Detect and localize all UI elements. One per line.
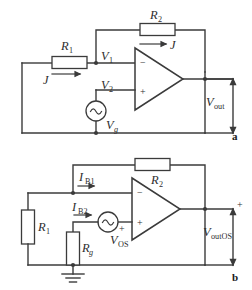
label-voutos-subscript: outOS — [211, 232, 232, 241]
label-ib1-subscript: B1 — [85, 177, 95, 186]
node-dot-source-gnd — [94, 131, 98, 135]
node-dot-b-inverting — [71, 191, 75, 195]
opamp-a-plus-sign: + — [140, 86, 146, 97]
resistor-b-rg-body — [67, 232, 80, 265]
opamp-b-minus-sign: − — [137, 187, 143, 198]
label-vout-subscript: out — [214, 102, 225, 111]
ground-icon — [62, 274, 84, 282]
label-r2: R — [149, 8, 158, 22]
resistor-b-r2-body — [135, 159, 170, 171]
label-r1: R — [60, 39, 69, 53]
label-source-vg-subscript: g — [114, 125, 118, 134]
wire-b-feedback-right — [170, 165, 205, 208]
wire-feedback-right — [175, 30, 205, 72]
current-arrow-j1-head — [75, 72, 80, 77]
current-arrow-j2-head — [161, 42, 166, 47]
label-node-v2-subscript: 2 — [109, 85, 113, 94]
label-ib2-subscript: B2 — [78, 207, 88, 216]
panel-label-b: b — [232, 271, 238, 283]
node-dot-b-output — [203, 207, 207, 211]
circuit-diagram-svg: − + R 1 R 2 J J V 1 V 2 V g V out a — [0, 0, 252, 290]
label-ib2: I — [71, 200, 77, 214]
label-r2-subscript: 2 — [158, 15, 162, 24]
opamp-b-plus-sign: + — [137, 217, 143, 228]
resistor-r1-body — [52, 57, 87, 69]
panel-b-circuit: − + R 2 R 1 R g I B1 I B2 + V OS + V out… — [22, 159, 244, 284]
label-b-r1: R — [37, 220, 46, 234]
label-node-v1-subscript: 1 — [109, 56, 113, 65]
label-current-j2: J — [170, 38, 177, 52]
label-current-j1: J — [43, 73, 50, 87]
node-dot-b-ground — [71, 263, 75, 267]
opamp-a-minus-sign: − — [140, 57, 146, 68]
panel-a-circuit: − + R 1 R 2 J J V 1 V 2 V g V out a — [22, 8, 238, 142]
port-arrow-voutos-bottom — [230, 259, 235, 265]
label-vos-polarity: + — [119, 223, 125, 234]
panel-label-a: a — [232, 130, 238, 142]
label-b-r1-subscript: 1 — [46, 227, 50, 236]
label-b-rg-subscript: g — [89, 248, 93, 257]
figure-canvas: − + R 1 R 2 J J V 1 V 2 V g V out a — [0, 0, 252, 290]
label-b-r2-subscript: 2 — [159, 180, 163, 189]
label-ib1: I — [78, 170, 84, 184]
resistor-b-r1-body — [22, 210, 35, 244]
label-voutos-polarity: + — [237, 199, 243, 210]
node-dot-v1 — [94, 61, 98, 65]
resistor-r2-body — [140, 24, 175, 36]
label-b-r2: R — [150, 173, 159, 187]
wire-b-vos-to-rg — [73, 222, 98, 232]
label-r1-subscript: 1 — [69, 46, 73, 55]
label-vos-subscript: OS — [118, 240, 129, 249]
